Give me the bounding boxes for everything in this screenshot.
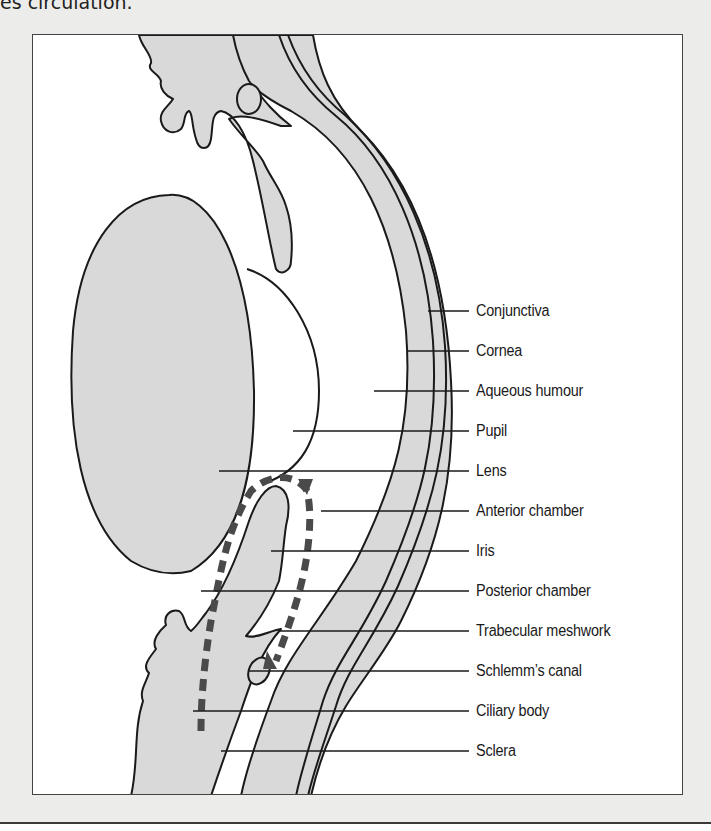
label-posterior-chamber: Posterior chamber bbox=[476, 582, 591, 600]
label-conjunctiva: Conjunctiva bbox=[476, 302, 549, 320]
label-aqueous-humour: Aqueous humour bbox=[476, 382, 583, 400]
label-anterior-chamber: Anterior chamber bbox=[476, 502, 584, 520]
lens bbox=[71, 195, 254, 573]
page-below-area bbox=[0, 824, 711, 831]
label-sclera: Sclera bbox=[476, 742, 516, 760]
label-cornea: Cornea bbox=[476, 342, 522, 360]
label-lens: Lens bbox=[476, 462, 507, 480]
label-iris: Iris bbox=[476, 542, 494, 560]
caption-text: es circulation. bbox=[0, 0, 133, 13]
label-trabecular-meshwork: Trabecular meshwork bbox=[476, 622, 610, 640]
label-ciliary-body: Ciliary body bbox=[476, 702, 549, 720]
pupil-curve bbox=[247, 269, 319, 484]
upper-schlemm-canal bbox=[237, 84, 261, 114]
label-pupil: Pupil bbox=[476, 422, 507, 440]
eye-anatomy-illustration bbox=[33, 35, 683, 795]
eye-diagram-panel: Conjunctiva Cornea Aqueous humour Pupil … bbox=[32, 34, 683, 795]
label-schlemms-canal: Schlemm’s canal bbox=[476, 662, 582, 680]
